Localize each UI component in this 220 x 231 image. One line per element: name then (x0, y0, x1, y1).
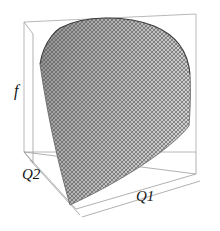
f-axis-top-tick (24, 22, 33, 34)
plot-canvas (0, 0, 220, 231)
q1-axis-label: Q1 (136, 189, 154, 204)
f-axis-label: f (14, 83, 18, 99)
vertical-axis-line (24, 22, 33, 163)
surface-plot-figure: f Q2 Q1 (0, 0, 220, 231)
q2-axis-label: Q2 (22, 167, 40, 182)
